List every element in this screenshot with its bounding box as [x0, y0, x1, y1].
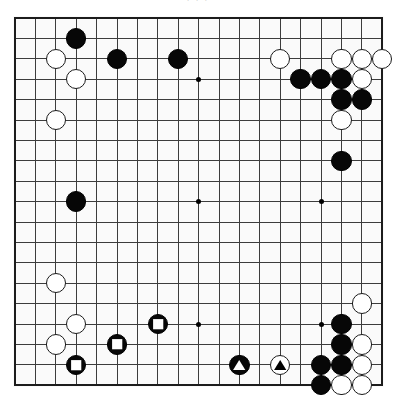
black-stone[interactable]	[66, 28, 86, 48]
board-grid-line-horizontal	[15, 262, 382, 263]
board-grid-line-horizontal	[15, 242, 382, 243]
board-grid-line-horizontal	[15, 303, 382, 304]
white-stone[interactable]	[46, 334, 66, 354]
board-grid-line-vertical	[259, 18, 260, 385]
white-stone[interactable]	[352, 375, 372, 395]
white-stone[interactable]	[352, 355, 372, 375]
white-stone[interactable]	[331, 375, 351, 395]
white-stone[interactable]	[352, 69, 372, 89]
black-stone-triangle-marked[interactable]	[229, 355, 249, 375]
white-stone[interactable]	[46, 49, 66, 69]
black-stone[interactable]	[331, 334, 351, 354]
black-stone[interactable]	[168, 49, 188, 69]
board-grid-line-horizontal	[15, 283, 382, 284]
white-stone-triangle-marked[interactable]	[270, 355, 290, 375]
board-grid-line-horizontal	[15, 222, 382, 223]
board-edge	[14, 17, 16, 386]
black-stone[interactable]	[311, 375, 331, 395]
go-board[interactable]	[13, 16, 384, 387]
black-stone-square-marked[interactable]	[148, 314, 168, 334]
white-stone[interactable]	[46, 273, 66, 293]
black-stone[interactable]	[290, 69, 310, 89]
white-stone[interactable]	[352, 334, 372, 354]
black-stone[interactable]	[331, 355, 351, 375]
board-edge	[14, 17, 383, 19]
black-stone[interactable]	[107, 49, 127, 69]
star-point	[196, 322, 201, 327]
black-stone[interactable]	[352, 89, 372, 109]
board-grid-line-vertical	[219, 18, 220, 385]
black-stone[interactable]	[311, 355, 331, 375]
white-stone[interactable]	[46, 110, 66, 130]
white-stone[interactable]	[372, 49, 392, 69]
board-container	[0, 0, 396, 408]
white-stone[interactable]	[352, 293, 372, 313]
white-stone[interactable]	[352, 49, 372, 69]
board-grid-line-vertical	[280, 18, 281, 385]
star-point	[196, 199, 201, 204]
white-stone[interactable]	[331, 110, 351, 130]
black-stone[interactable]	[66, 191, 86, 211]
board-grid-line-vertical	[239, 18, 240, 385]
black-stone[interactable]	[331, 89, 351, 109]
black-stone-square-marked[interactable]	[66, 355, 86, 375]
black-stone[interactable]	[331, 314, 351, 334]
black-stone[interactable]	[311, 69, 331, 89]
black-stone[interactable]	[331, 151, 351, 171]
star-point	[319, 322, 324, 327]
black-stone[interactable]	[331, 69, 351, 89]
go-diagram-root: · · ·	[0, 0, 396, 408]
white-stone[interactable]	[66, 69, 86, 89]
black-stone-square-marked[interactable]	[107, 334, 127, 354]
board-edge	[381, 17, 383, 386]
white-stone[interactable]	[331, 49, 351, 69]
board-grid-line-horizontal	[15, 344, 382, 345]
white-stone[interactable]	[66, 314, 86, 334]
white-stone[interactable]	[270, 49, 290, 69]
star-point	[319, 199, 324, 204]
star-point	[196, 77, 201, 82]
